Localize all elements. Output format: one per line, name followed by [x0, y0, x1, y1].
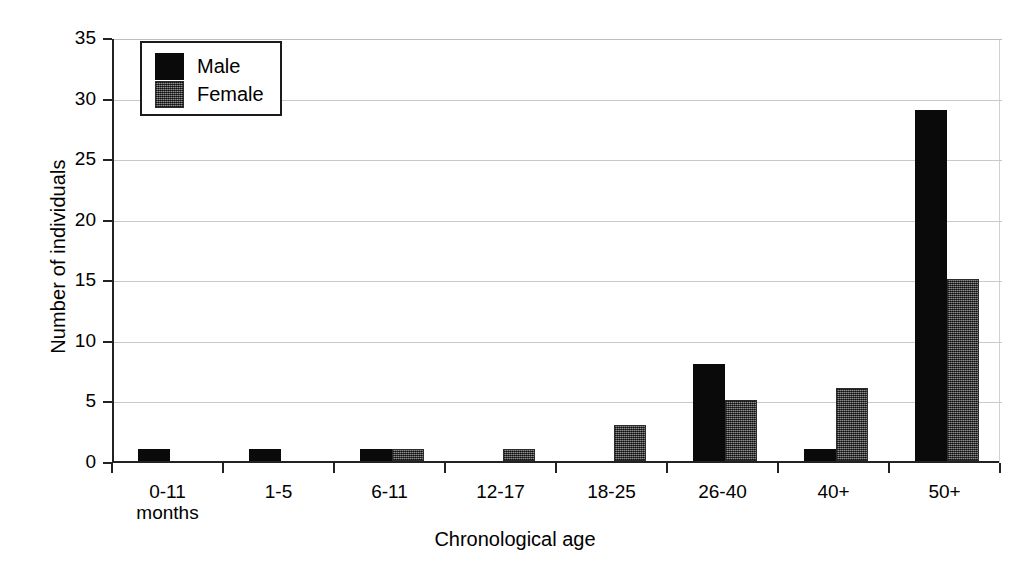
y-axis-tick — [103, 280, 112, 282]
y-axis-tick — [103, 99, 112, 101]
y-axis-tick-label: 30 — [40, 89, 96, 108]
legend-item-female: Female — [155, 79, 264, 109]
gridline — [114, 39, 1002, 40]
x-axis-tick-label-line: 1-5 — [265, 481, 292, 502]
bar-male-1-5 — [249, 449, 281, 461]
x-axis-tick-label-line: 12-17 — [476, 481, 525, 502]
x-axis-tick — [666, 463, 668, 473]
bar-female-26-40 — [725, 400, 757, 461]
legend-label-female: Female — [197, 83, 264, 106]
x-axis-tick — [111, 463, 113, 473]
x-axis-tick-label-line: 0-11 — [149, 481, 186, 502]
scan-artifact — [0, 566, 1030, 588]
x-axis-tick — [999, 463, 1001, 473]
y-axis-tick-label: 20 — [40, 210, 96, 229]
bar-female-12-17 — [503, 449, 535, 461]
x-axis-tick — [777, 463, 779, 473]
chart-legend: Male Female — [140, 41, 282, 116]
x-axis-title: Chronological age — [0, 528, 1030, 551]
x-axis-tick-label-line: months — [103, 502, 233, 523]
y-axis-tick-label: 25 — [40, 149, 96, 168]
x-axis-tick-label-line: 18-25 — [587, 481, 636, 502]
y-axis-tick — [103, 341, 112, 343]
x-axis-tick — [333, 463, 335, 473]
bar-chart: Number of individuals 05101520253035 0-1… — [0, 0, 1030, 588]
x-axis-tick — [222, 463, 224, 473]
legend-item-male: Male — [155, 51, 240, 81]
legend-swatch-male-icon — [155, 53, 184, 80]
bar-male-26-40 — [693, 364, 725, 461]
gridline — [114, 160, 1002, 161]
gridline — [114, 281, 1002, 282]
x-axis-tick-label-line: 50+ — [928, 481, 960, 502]
bar-male-6-11 — [360, 449, 392, 461]
x-axis-tick-label-line: 26-40 — [698, 481, 747, 502]
y-axis-tick — [103, 220, 112, 222]
gridline — [114, 402, 1002, 403]
x-axis-tick — [444, 463, 446, 473]
gridline — [114, 221, 1002, 222]
bar-female-40+ — [836, 388, 868, 461]
legend-swatch-female-icon — [155, 81, 184, 108]
gridline — [114, 342, 1002, 343]
y-axis-tick-label: 10 — [40, 331, 96, 350]
x-axis-tick — [555, 463, 557, 473]
legend-label-male: Male — [197, 55, 240, 78]
bar-male-50+ — [915, 110, 947, 461]
bar-female-6-11 — [392, 449, 424, 461]
x-axis-tick-label-line: 6-11 — [371, 481, 408, 502]
y-axis-tick-label: 35 — [40, 28, 96, 47]
x-axis-tick — [888, 463, 890, 473]
y-axis-tick-label: 5 — [40, 391, 96, 410]
bar-male-40+ — [804, 449, 836, 461]
x-axis-tick-label: 50+ — [880, 481, 1010, 502]
y-axis-tick — [103, 38, 112, 40]
y-axis-tick-label: 0 — [40, 452, 96, 471]
bar-male-0-11-months — [138, 449, 170, 461]
x-axis-tick-label-line: 40+ — [817, 481, 849, 502]
bar-female-50+ — [947, 279, 979, 461]
bar-female-18-25 — [614, 425, 646, 461]
y-axis-tick — [103, 159, 112, 161]
y-axis-tick-label: 15 — [40, 270, 96, 289]
plot-right-border — [999, 39, 1000, 463]
y-axis-tick — [103, 401, 112, 403]
